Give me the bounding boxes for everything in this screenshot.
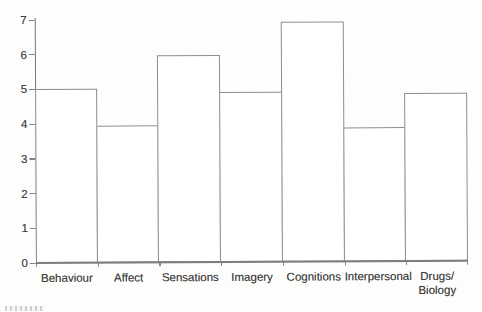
bar-chart: 01234567 BehaviourAffectSensationsImager… bbox=[0, 0, 482, 312]
x-tick-label-behaviour: Behaviour bbox=[36, 271, 98, 285]
x-axis-labels: BehaviourAffectSensationsImageryCognitio… bbox=[36, 269, 468, 305]
y-axis-tick bbox=[29, 158, 35, 159]
y-tick-label-4: 4 bbox=[0, 117, 27, 131]
bar-interpersonal bbox=[343, 127, 406, 261]
x-tick-label-interpersonal: Interpersonal bbox=[345, 269, 407, 283]
y-tick-label-2: 2 bbox=[0, 187, 28, 201]
plot-area bbox=[35, 18, 468, 263]
x-tick-label-affect: Affect bbox=[98, 270, 160, 284]
y-axis-tick bbox=[29, 54, 35, 55]
bar-sensations bbox=[157, 55, 221, 262]
y-axis-tick bbox=[30, 193, 36, 194]
x-tick-label-cognitions: Cognitions bbox=[283, 269, 345, 283]
bar-behaviour bbox=[35, 89, 98, 263]
bar-affect bbox=[96, 125, 159, 262]
y-axis-tick bbox=[30, 228, 36, 229]
y-tick-label-0: 0 bbox=[0, 256, 28, 270]
bar-cognitions bbox=[281, 22, 345, 262]
y-tick-label-7: 7 bbox=[0, 13, 27, 27]
y-tick-label-5: 5 bbox=[0, 82, 27, 96]
bar-drugs-biology bbox=[404, 92, 468, 261]
y-axis-tick bbox=[29, 20, 35, 21]
x-tick-label-drugs-biology: Drugs/ Biology bbox=[406, 269, 468, 297]
cropped-caption-smudge bbox=[5, 306, 45, 311]
y-axis-tick bbox=[29, 89, 35, 90]
bars-group bbox=[35, 18, 468, 263]
scanned-figure-page: 01234567 BehaviourAffectSensationsImager… bbox=[0, 0, 482, 312]
y-tick-label-1: 1 bbox=[0, 221, 28, 235]
x-tick-label-imagery: Imagery bbox=[221, 270, 283, 284]
y-tick-label-3: 3 bbox=[0, 152, 27, 166]
x-tick-label-sensations: Sensations bbox=[159, 270, 221, 284]
y-tick-label-6: 6 bbox=[0, 48, 27, 62]
y-axis-tick bbox=[29, 124, 35, 125]
bar-imagery bbox=[219, 92, 283, 262]
